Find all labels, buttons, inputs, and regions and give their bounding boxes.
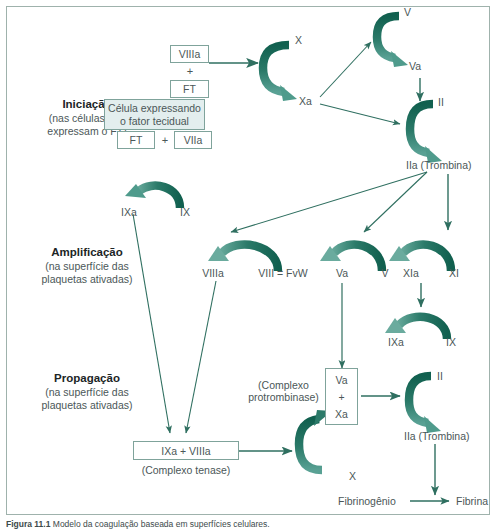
prothrombinase-line1: (Complexo — [258, 379, 309, 391]
label-xa-prothrombinase: Xa — [335, 408, 348, 420]
figure-caption: Figura 11.1 Modelo da coagulação baseada… — [6, 519, 491, 529]
label-ix-amplification: IX — [446, 336, 456, 348]
figure-root: Iniciação (nas células que expressam o F… — [0, 0, 497, 530]
label-ix-initiation: IX — [180, 206, 190, 218]
figure-caption-number: Figura 11.1 — [6, 519, 50, 529]
label-viii-fvw: VIII = FvW — [258, 267, 307, 279]
stage-sub2-amplificacao: plaquetas ativadas) — [12, 273, 162, 286]
label-iia-trombina-propagation: IIa (Trombina) — [404, 430, 470, 442]
box-tissue-factor-cell: Célula expressando o fator tecidual — [104, 99, 205, 130]
stage-sub1-propagacao: (na superfície das — [12, 386, 162, 399]
plus-sign-bottom: + — [162, 134, 168, 146]
label-tenase-complex-caption: (Complexo tenase) — [142, 464, 231, 476]
label-viiia-amplification: VIIIa — [202, 267, 224, 279]
box-viia-bottom: VIIa — [174, 131, 212, 149]
label-xa-top: Xa — [299, 95, 312, 107]
prothrombinase-line2: protrombinase) — [248, 391, 319, 403]
stage-title-propagacao: Propagação — [12, 372, 162, 385]
stage-label-amplificacao: Amplificação (na superfície das plaqueta… — [12, 246, 162, 286]
stage-label-propagacao: Propagação (na superfície das plaquetas … — [12, 372, 162, 412]
label-fibrina: Fibrina — [456, 495, 488, 507]
label-va-top: Va — [409, 60, 421, 72]
plus-sign-top: + — [187, 65, 193, 77]
label-x-top: X — [295, 34, 302, 46]
figure-caption-text: Modelo da coagulação baseada em superfíc… — [53, 519, 270, 529]
label-va-prothrombinase: Va — [335, 374, 347, 386]
cell-label-line2: o fator tecidual — [120, 115, 189, 127]
box-prothrombinase-complex: Va + Xa — [325, 368, 358, 425]
label-v-top: V — [404, 6, 411, 18]
label-xi-amplification: XI — [449, 267, 459, 279]
label-prothrombinase-complex: (Complexo protrombinase) — [246, 379, 321, 403]
box-viiia-top: VIIIa — [170, 45, 209, 63]
plus-sign-prothrombinase: + — [338, 391, 344, 403]
cell-label-line1: Célula expressando — [108, 102, 201, 114]
label-ixa-initiation: IXa — [121, 206, 137, 218]
box-ft-bottom: FT — [117, 131, 155, 149]
label-ii-propagation: II — [437, 370, 443, 382]
stage-title-amplificacao: Amplificação — [12, 246, 162, 259]
label-iia-trombina-top: IIa (Trombina) — [406, 159, 472, 171]
label-x-propagation: X — [349, 470, 356, 482]
stage-sub1-amplificacao: (na superfície das — [12, 260, 162, 273]
label-xia-amplification: XIa — [403, 267, 419, 279]
box-tenase-complex: IXa + VIIIa — [133, 441, 239, 460]
box-ft-top: FT — [170, 80, 209, 98]
label-v-amplification: V — [381, 267, 388, 279]
label-fibrinogenio: Fibrinogênio — [338, 495, 396, 507]
label-ii-top: II — [438, 96, 444, 108]
label-ixa-amplification: IXa — [388, 336, 404, 348]
stage-sub2-propagacao: plaquetas ativadas) — [12, 399, 162, 412]
label-va-amplification: Va — [336, 267, 348, 279]
